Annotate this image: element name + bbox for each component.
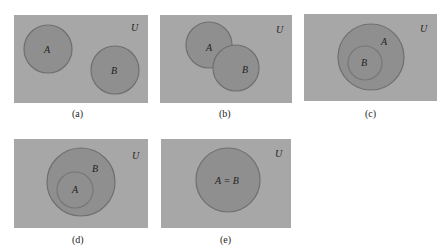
universe-label: U: [131, 22, 139, 33]
panel-caption: (e): [220, 234, 231, 246]
panel-caption: (b): [219, 108, 231, 120]
panel-b: U A B (b): [160, 15, 292, 120]
universe-label: U: [132, 150, 140, 161]
set-a-label: A: [43, 44, 51, 55]
universe-label: U: [276, 24, 284, 35]
set-b-label: B: [111, 65, 117, 76]
panel-e: U A = B (e): [161, 139, 291, 246]
set-b-label: B: [92, 163, 98, 174]
set-a-label: A: [205, 42, 213, 53]
venn-diagrams: U A B (a) U A B (b) U A B (c) U B A (d): [0, 0, 447, 247]
universe-label: U: [420, 23, 428, 34]
panel-c: U A B (c): [304, 14, 437, 120]
panel-caption: (a): [72, 108, 83, 120]
set-b-label: B: [361, 57, 367, 68]
set-a-label: A: [71, 184, 79, 195]
panel-caption: (c): [365, 108, 376, 120]
set-b-circle: [213, 45, 259, 91]
panel-d: U B A (d): [14, 139, 148, 246]
panel-a: U A B (a): [14, 15, 148, 120]
set-a-label: A: [380, 36, 388, 47]
set-b-label: B: [242, 64, 248, 75]
universe-label: U: [275, 148, 283, 159]
set-a-equals-b-label: A = B: [214, 175, 239, 186]
panel-caption: (d): [72, 234, 84, 246]
